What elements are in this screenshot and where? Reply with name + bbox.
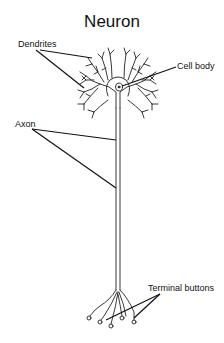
terminal-button (120, 316, 124, 320)
nucleolus-shape (118, 86, 120, 88)
neuron-illustration (0, 0, 224, 343)
pointer-terminal-2 (134, 294, 160, 318)
pointer-dendrites-1 (40, 50, 92, 58)
pointer-lines (32, 50, 176, 320)
terminal-button (87, 316, 91, 320)
pointer-cell-body (122, 67, 176, 86)
terminal-button (132, 320, 136, 324)
axon-terminals (90, 290, 134, 324)
terminal-button (98, 320, 102, 324)
terminal-button (109, 324, 113, 328)
